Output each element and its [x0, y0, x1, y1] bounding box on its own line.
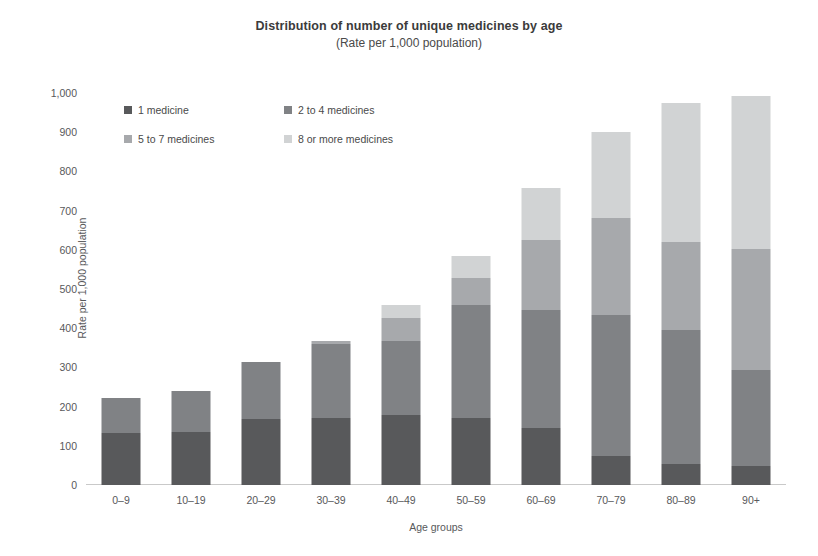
bar-segment[interactable]: [732, 370, 771, 466]
x-tick-label: 70–79: [596, 494, 625, 506]
legend-label: 5 to 7 medicines: [138, 133, 214, 145]
y-tick-label: 500: [17, 283, 77, 295]
x-tick-label: 90+: [742, 494, 760, 506]
bar-segment[interactable]: [522, 428, 561, 485]
x-tick-label: 0–9: [112, 494, 130, 506]
x-tick-label: 50–59: [456, 494, 485, 506]
x-tick-label: 40–49: [386, 494, 415, 506]
bar-stack[interactable]: [382, 305, 421, 485]
x-axis-label: Age groups: [86, 521, 786, 533]
bar-segment[interactable]: [522, 240, 561, 310]
bar-segment[interactable]: [592, 132, 631, 218]
bar-segment[interactable]: [312, 418, 351, 485]
bar-segment[interactable]: [382, 415, 421, 485]
bar-segment[interactable]: [522, 310, 561, 428]
bar-segment[interactable]: [102, 433, 141, 485]
chart-legend: 1 medicine2 to 4 medicines5 to 7 medicin…: [124, 104, 454, 145]
bar-segment[interactable]: [172, 432, 211, 485]
bar-segment[interactable]: [452, 418, 491, 485]
bar-stack[interactable]: [172, 391, 211, 485]
legend-item[interactable]: 8 or more medicines: [284, 133, 454, 145]
bar-segment[interactable]: [592, 456, 631, 485]
x-tick-label: 20–29: [246, 494, 275, 506]
bar-segment[interactable]: [732, 249, 771, 370]
y-tick-label: 0: [17, 479, 77, 491]
bar-segment[interactable]: [102, 398, 141, 433]
chart-subtitle: (Rate per 1,000 population): [0, 35, 818, 52]
bar-stack[interactable]: [452, 256, 491, 485]
y-tick-label: 300: [17, 361, 77, 373]
x-tick-label: 30–39: [316, 494, 345, 506]
legend-item[interactable]: 5 to 7 medicines: [124, 133, 284, 145]
legend-swatch-icon: [124, 106, 132, 114]
legend-label: 2 to 4 medicines: [298, 104, 374, 116]
chart-title-block: Distribution of number of unique medicin…: [0, 18, 818, 52]
bar-segment[interactable]: [172, 391, 211, 433]
bar-segment[interactable]: [662, 242, 701, 330]
legend-swatch-icon: [284, 135, 292, 143]
y-tick-label: 400: [17, 322, 77, 334]
x-tick-label: 80–89: [666, 494, 695, 506]
bar-segment[interactable]: [242, 362, 281, 419]
bar-segment[interactable]: [592, 218, 631, 315]
bar-stack[interactable]: [732, 96, 771, 485]
legend-swatch-icon: [284, 106, 292, 114]
y-tick-label: 900: [17, 126, 77, 138]
bar-segment[interactable]: [382, 341, 421, 415]
y-tick-label: 200: [17, 401, 77, 413]
y-tick-label: 1,000: [17, 87, 77, 99]
legend-item[interactable]: 2 to 4 medicines: [284, 104, 454, 116]
bar-segment[interactable]: [732, 466, 771, 485]
bar-segment[interactable]: [662, 464, 701, 485]
bar-segment[interactable]: [522, 188, 561, 240]
legend-swatch-icon: [124, 135, 132, 143]
bar-segment[interactable]: [452, 305, 491, 418]
bar-stack[interactable]: [102, 398, 141, 485]
bar-segment[interactable]: [452, 278, 491, 305]
legend-label: 1 medicine: [138, 104, 189, 116]
bar-segment[interactable]: [382, 318, 421, 341]
bar-segment[interactable]: [312, 344, 351, 418]
y-tick-label: 100: [17, 440, 77, 452]
x-tick-label: 60–69: [526, 494, 555, 506]
bar-stack[interactable]: [242, 362, 281, 485]
bar-segment[interactable]: [592, 315, 631, 456]
bar-stack[interactable]: [592, 132, 631, 485]
bar-segment[interactable]: [382, 305, 421, 318]
bar-segment[interactable]: [662, 330, 701, 464]
plot-area: 01002003004005006007008009001,000 0–910–…: [86, 93, 786, 485]
x-tick-label: 10–19: [176, 494, 205, 506]
legend-label: 8 or more medicines: [298, 133, 393, 145]
bar-stack[interactable]: [662, 103, 701, 485]
bar-stack[interactable]: [312, 341, 351, 485]
bar-stack[interactable]: [522, 188, 561, 485]
chart-title: Distribution of number of unique medicin…: [0, 18, 818, 35]
bar-segment[interactable]: [452, 256, 491, 278]
chart-figure: Distribution of number of unique medicin…: [0, 0, 818, 556]
bar-segment[interactable]: [242, 419, 281, 485]
legend-item[interactable]: 1 medicine: [124, 104, 284, 116]
bar-segment[interactable]: [662, 103, 701, 242]
bar-segment[interactable]: [732, 96, 771, 249]
y-tick-label: 800: [17, 165, 77, 177]
y-tick-label: 700: [17, 205, 77, 217]
y-tick-label: 600: [17, 244, 77, 256]
